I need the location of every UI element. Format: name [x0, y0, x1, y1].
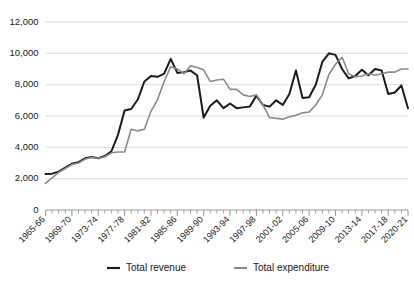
x-axis-labels: 1965-661969-701973-741977-781981-821985-… — [16, 214, 409, 244]
x-axis — [46, 210, 409, 216]
x-axis-tick-label: 2005-06 — [280, 214, 310, 244]
x-axis-tick-label: 1977-78 — [96, 214, 126, 244]
y-axis-tick-label: 6,000 — [15, 110, 39, 121]
y-axis-tick-label: 12,000 — [9, 16, 38, 27]
chart-container: 02,0004,0006,0008,00010,00012,000 1965-6… — [0, 0, 414, 290]
data-series — [46, 53, 409, 183]
y-axis-tick-label: 4,000 — [15, 141, 39, 152]
line-chart: 02,0004,0006,0008,00010,00012,000 1965-6… — [0, 0, 414, 290]
series-line-total-revenue — [46, 53, 409, 174]
gridlines — [46, 22, 409, 210]
x-axis-tick-label: 1985-86 — [148, 214, 178, 244]
legend-label: Total expenditure — [253, 262, 330, 273]
x-axis-tick-label: 1989-90 — [175, 214, 205, 244]
x-axis-tick-label: 2013-14 — [333, 214, 363, 244]
series-line-total-expenditure — [46, 57, 409, 183]
chart-legend: Total revenueTotal expenditure — [107, 262, 330, 273]
y-axis-labels: 02,0004,0006,0008,00010,00012,000 — [9, 16, 38, 215]
x-axis-tick-label: 1969-70 — [43, 214, 73, 244]
x-axis-tick-label: 1981-82 — [122, 214, 152, 244]
y-axis-tick-label: 10,000 — [9, 47, 38, 58]
y-axis-tick-label: 2,000 — [15, 172, 39, 183]
y-axis-tick-label: 8,000 — [15, 78, 39, 89]
x-axis-tick-label: 1973-74 — [69, 214, 99, 244]
x-axis-tick-label: 1993-94 — [201, 214, 231, 244]
x-axis-tick-label: 2001-02 — [254, 214, 284, 244]
legend-label: Total revenue — [126, 262, 186, 273]
x-axis-tick-label: 2009-10 — [306, 214, 336, 244]
x-axis-tick-label: 1997-98 — [227, 214, 257, 244]
x-axis-tick-label: 1965-66 — [16, 214, 46, 244]
y-axis-tick-label: 0 — [33, 204, 38, 215]
